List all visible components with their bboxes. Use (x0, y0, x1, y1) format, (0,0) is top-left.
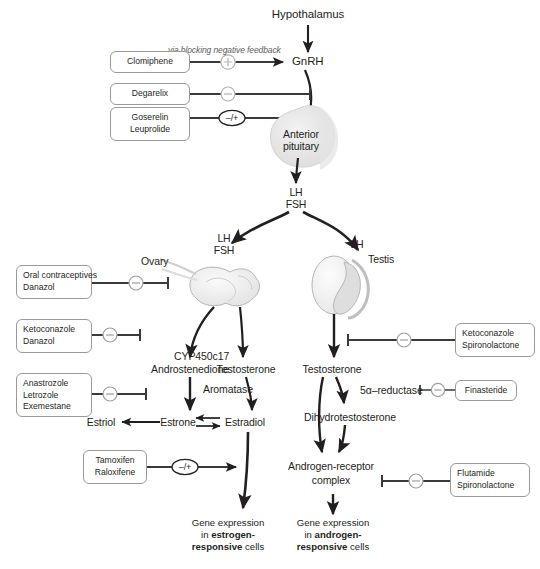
effect-symbol-minus-plus-goserelin: –/+ (226, 112, 238, 124)
pathway-diagram-canvas: Hypothalamus via blocking negative feedb… (0, 0, 540, 569)
node-testosterone-testis: Testosterone (303, 363, 362, 375)
drug-label: Letrozole (23, 390, 85, 402)
drug-label: Spironolactone (457, 480, 523, 492)
drug-label: Clomiphene (117, 56, 183, 68)
drug-label: Danazol (23, 336, 85, 348)
drug-label: Flutamide (457, 468, 523, 480)
drug-label: Spironolactone (462, 340, 528, 352)
node-androgen-receptor-complex-line2: complex (312, 474, 350, 486)
node-anterior-pituitary-line2: pituitary (283, 140, 319, 152)
drug-label: Leuprolide (117, 124, 183, 136)
drug-label: Degarelix (117, 88, 183, 100)
drug-box-clomiphene[interactable]: Clomiphene (110, 51, 190, 73)
node-estrone: Estrone (160, 416, 196, 428)
drug-box-ketoconazole-danazol[interactable]: Ketoconazole Danazol (16, 319, 92, 353)
drug-label: Anastrozole (23, 378, 85, 390)
node-testis: Testis (368, 253, 394, 265)
node-estriol: Estriol (87, 416, 115, 428)
drug-label: Oral contraceptives (23, 270, 85, 282)
node-anterior-pituitary-line1: Anterior (283, 128, 319, 140)
drug-box-tamoxifen-raloxifene[interactable]: Tamoxifen Raloxifene (83, 450, 147, 484)
drug-label: Raloxifene (90, 467, 140, 479)
node-gnrh: GnRH (292, 55, 324, 67)
drug-label: Tamoxifen (90, 455, 140, 467)
node-lh-pituitary: LH (289, 186, 302, 198)
node-ovary: Ovary (141, 255, 169, 267)
node-androgen-receptor-complex-line1: Androgen-receptor (288, 460, 374, 472)
node-testosterone-ovary: Testosterone (217, 363, 276, 375)
node-lh-testis: LH (350, 238, 363, 250)
drug-box-finasteride[interactable]: Finasteride (455, 380, 517, 401)
node-lh-ovary: LH (217, 232, 230, 244)
drug-box-aromatase-inhibitors[interactable]: Anastrozole Letrozole Exemestane (16, 373, 92, 417)
node-dihydrotestosterone: Dihydrotestosterone (304, 411, 396, 423)
drug-label: Exemestane (23, 401, 85, 413)
drug-box-degarelix[interactable]: Degarelix (110, 83, 190, 105)
gene-expression-androgen-line1: Gene expression (268, 517, 398, 529)
gene-expression-androgen-line3: responsive cells (268, 541, 398, 553)
node-aromatase: Aromatase (203, 383, 253, 395)
gene-expression-androgen: Gene expression in androgen- responsive … (268, 517, 398, 554)
effect-symbol-minus-plus-serm: –/+ (179, 461, 191, 473)
node-estradiol: Estradiol (225, 416, 265, 428)
drug-label: Danazol (23, 282, 85, 294)
node-hypothalamus: Hypothalamus (272, 8, 344, 20)
drug-box-oral-contraceptives-danazol[interactable]: Oral contraceptives Danazol (16, 265, 92, 299)
node-fsh-ovary: FSH (214, 244, 235, 256)
drug-label: Finasteride (462, 385, 510, 397)
drug-box-goserelin-leuprolide[interactable]: Goserelin Leuprolide (110, 107, 190, 141)
node-fsh-pituitary: FSH (286, 198, 307, 210)
drug-box-flutamide-spironolactone[interactable]: Flutamide Spironolactone (450, 463, 530, 497)
drug-label: Goserelin (117, 112, 183, 124)
drug-label: Ketoconazole (23, 324, 85, 336)
gene-expression-androgen-line2: in androgen- (268, 529, 398, 541)
node-5-alpha-reductase: 5α–reductase (360, 384, 423, 396)
node-cyp450c17: CYP450c17 (174, 350, 229, 362)
drug-label: Ketoconazole (462, 328, 528, 340)
drug-box-ketoconazole-spironolactone[interactable]: Ketoconazole Spironolactone (455, 323, 535, 357)
